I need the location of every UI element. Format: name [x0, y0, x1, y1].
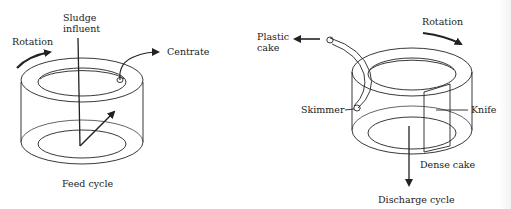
label-skimmer: Skimmer [301, 104, 345, 115]
caption-discharge-cycle: Discharge cycle [378, 194, 455, 205]
label-dense-cake: Dense cake [420, 159, 476, 170]
centrifuge-bowl-icon [352, 48, 472, 154]
feed-cycle-panel [17, 38, 158, 164]
label-rotation-right: Rotation [422, 16, 463, 27]
rotation-arrow-icon [423, 33, 461, 44]
feed-arrow-icon [80, 112, 114, 146]
centrate-arrow-icon [120, 52, 158, 80]
centrifuge-bowl-icon [21, 58, 143, 164]
rotation-arrow-icon [17, 52, 50, 68]
label-rotation-left: Rotation [12, 36, 53, 47]
label-plastic: Plastic [257, 31, 289, 42]
label-knife: Knife [471, 104, 497, 115]
label-influent: influent [63, 23, 100, 34]
caption-feed-cycle: Feed cycle [62, 178, 113, 189]
label-sludge: Sludge [63, 12, 97, 23]
feed-cycle-labels: Rotation Sludge influent Centrate Feed c… [12, 12, 210, 189]
skimmer-leader-line [345, 109, 354, 110]
basket-centrifuge-diagram: Rotation Sludge influent Centrate Feed c… [0, 0, 511, 209]
label-cake: cake [257, 42, 280, 53]
label-centrate: Centrate [167, 46, 210, 57]
skimmer-tube-icon [327, 37, 372, 111]
